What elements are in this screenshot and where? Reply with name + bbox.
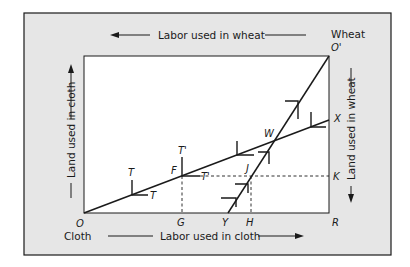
wheat-corner-label: Wheat <box>331 28 365 40</box>
cloth-origin-label: O <box>76 218 84 229</box>
label-T-prime-upper: T' <box>178 145 187 156</box>
right-axis-label: Land used in wheat <box>345 77 357 180</box>
label-F: F <box>171 165 177 176</box>
cloth-corner-label: Cloth <box>64 230 91 242</box>
label-Y: Y <box>222 217 229 228</box>
label-X: X <box>333 113 342 124</box>
label-T-upper: T <box>128 167 135 178</box>
label-H: H <box>246 217 254 228</box>
left-axis-label-group: Land used in cloth <box>65 64 77 198</box>
bottom-axis-label: Labor used in cloth <box>160 230 260 242</box>
top-axis-label: Labor used in wheat <box>158 29 265 41</box>
label-W: W <box>264 128 275 139</box>
wheat-origin-label: O' <box>331 42 342 53</box>
edgeworth-box-diagram: Labor used in wheat Labor used in cloth … <box>0 0 410 267</box>
left-axis-label: Land used in cloth <box>65 82 77 178</box>
label-R: R <box>332 217 339 228</box>
label-G: G <box>177 217 185 228</box>
label-T-right: T <box>150 190 157 201</box>
label-T-prime-right: T' <box>201 171 210 182</box>
